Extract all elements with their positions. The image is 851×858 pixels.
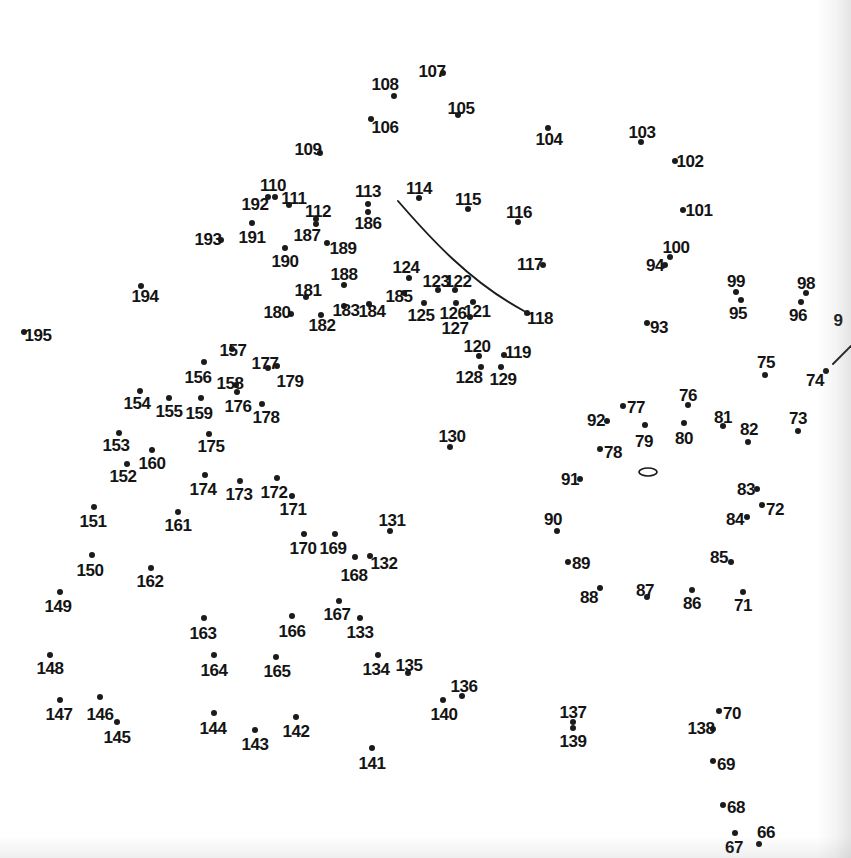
dot-number-label: 194	[131, 288, 158, 305]
puzzle-dot	[259, 401, 265, 407]
puzzle-dot	[249, 220, 255, 226]
dot-number-label: 187	[293, 227, 320, 244]
dot-number-label: 191	[238, 229, 265, 246]
puzzle-dot	[762, 372, 768, 378]
dot-number-label: 154	[123, 395, 150, 412]
dot-number-label: 102	[676, 153, 703, 170]
dot-number-label: 195	[24, 327, 51, 344]
puzzle-dot	[597, 446, 603, 452]
dot-number-label: 86	[683, 595, 701, 612]
puzzle-dot	[369, 745, 375, 751]
dot-number-label: 151	[79, 513, 106, 530]
dot-number-label: 85	[710, 549, 728, 566]
puzzle-dot	[689, 587, 695, 593]
dot-number-label: 93	[650, 319, 668, 336]
dot-number-label: 142	[282, 723, 309, 740]
puzzle-dot	[440, 697, 446, 703]
puzzle-dot	[375, 652, 381, 658]
dot-number-label: 101	[685, 202, 712, 219]
dot-number-label: 109	[294, 141, 321, 158]
puzzle-dot	[47, 652, 53, 658]
dot-number-label: 78	[604, 444, 622, 461]
dot-number-label: 69	[717, 756, 735, 773]
dot-number-label: 144	[199, 720, 226, 737]
puzzle-dot	[357, 615, 363, 621]
puzzle-dot	[744, 514, 750, 520]
puzzle-dot	[274, 363, 280, 369]
puzzle-dot	[798, 299, 804, 305]
puzzle-dot	[149, 447, 155, 453]
puzzle-dot	[57, 697, 63, 703]
dot-number-label: 67	[725, 839, 743, 856]
puzzle-dot	[252, 727, 258, 733]
dot-number-label: 98	[797, 275, 815, 292]
dot-number-label: 88	[580, 589, 598, 606]
puzzle-dot	[293, 714, 299, 720]
puzzle-dot	[720, 802, 726, 808]
dot-number-label: 116	[506, 204, 532, 221]
puzzle-dot	[728, 559, 734, 565]
puzzle-dot	[273, 654, 279, 660]
dot-number-label: 127	[441, 320, 468, 337]
dot-number-label: 130	[438, 428, 465, 445]
dot-number-label: 146	[86, 706, 113, 723]
dot-number-label: 119	[505, 344, 531, 361]
dot-number-label: 104	[535, 131, 562, 148]
dot-number-label: 179	[276, 373, 303, 390]
dot-number-label: 193	[194, 231, 221, 248]
puzzle-dot	[681, 420, 687, 426]
dot-number-label: 165	[263, 663, 290, 680]
puzzle-dot	[352, 554, 358, 560]
dot-number-label: 135	[395, 657, 422, 674]
dot-number-label: 124	[392, 259, 419, 276]
dot-number-label: 170	[289, 540, 316, 557]
puzzle-dot	[57, 589, 63, 595]
puzzle-dot	[642, 422, 648, 428]
dot-number-label: 82	[740, 421, 758, 438]
dot-number-label: 163	[189, 625, 216, 642]
dot-number-label: 105	[447, 100, 474, 117]
dot-number-label: 112	[305, 203, 331, 220]
dot-number-label: 137	[559, 704, 586, 721]
dot-number-label: 143	[241, 736, 268, 753]
page-edge-shading-bottom	[0, 836, 851, 858]
dot-number-label: 171	[279, 501, 306, 518]
dot-number-label: 160	[138, 455, 165, 472]
dot-number-label: 157	[219, 342, 246, 359]
puzzle-dot	[795, 428, 801, 434]
dot-number-label: 66	[757, 824, 775, 841]
puzzle-dot	[114, 719, 120, 725]
dot-number-label: 133	[346, 624, 373, 641]
puzzle-dot	[710, 758, 716, 764]
dot-number-label: 175	[197, 438, 224, 455]
dot-number-label: 147	[45, 706, 72, 723]
dot-number-label: 155	[155, 403, 182, 420]
dot-number-label: 185	[385, 288, 412, 305]
dot-number-label: 107	[418, 63, 445, 80]
dot-number-label: 159	[185, 405, 212, 422]
puzzle-dot	[745, 439, 751, 445]
dot-number-label: 94	[646, 257, 664, 274]
dot-number-label: 84	[726, 511, 744, 528]
puzzle-dot	[198, 395, 204, 401]
dot-number-label: 87	[636, 582, 654, 599]
dot-number-label: 75	[757, 354, 775, 371]
dot-number-label: 90	[544, 511, 562, 528]
dot-number-label: 162	[136, 573, 163, 590]
dot-number-label: 111	[281, 190, 306, 207]
dot-number-label: 148	[36, 660, 63, 677]
puzzle-dot	[175, 509, 181, 515]
dot-number-label: 181	[294, 282, 321, 299]
dot-number-label: 172	[260, 484, 287, 501]
puzzle-dot	[211, 652, 217, 658]
puzzle-dot	[332, 531, 338, 537]
dot-number-label: 188	[330, 266, 357, 283]
puzzle-dot	[336, 598, 342, 604]
puzzle-dot	[301, 531, 307, 537]
dot-number-label: 145	[103, 729, 130, 746]
dot-number-label: 99	[727, 273, 745, 290]
dot-number-label: 129	[489, 371, 516, 388]
dot-number-label: 76	[679, 387, 697, 404]
dot-number-label: 81	[714, 409, 732, 426]
puzzle-dot	[289, 493, 295, 499]
